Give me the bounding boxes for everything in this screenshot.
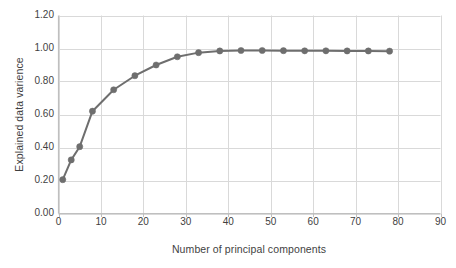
data-point-marker (344, 48, 350, 54)
x-axis-tick-label: 50 (256, 216, 286, 227)
data-point-marker (386, 48, 392, 54)
x-axis-tick-labels: 0102030405060708090 (0, 216, 456, 232)
data-point-marker (153, 62, 159, 68)
data-point-marker (302, 48, 308, 54)
data-point-marker (323, 48, 329, 54)
data-point-marker (132, 73, 138, 79)
data-point-marker (77, 144, 83, 150)
gridlines (59, 16, 442, 215)
data-point-marker (280, 48, 286, 54)
x-axis-title: Number of principal components (58, 243, 440, 255)
x-axis-tick-label: 70 (341, 216, 371, 227)
x-axis-tick-label: 60 (298, 216, 328, 227)
x-axis-tick-label: 20 (128, 216, 158, 227)
data-point-marker (259, 47, 265, 53)
data-point-marker (217, 48, 223, 54)
data-point-marker (111, 87, 117, 93)
data-point-marker (365, 48, 371, 54)
x-axis-tick-label: 90 (426, 216, 456, 227)
x-axis-tick-label: 40 (213, 216, 243, 227)
data-point-marker (89, 108, 95, 114)
data-point-marker (60, 177, 66, 183)
x-axis-tick-label: 80 (383, 216, 413, 227)
chart-container: Explained data varience 0.000.200.400.60… (0, 0, 456, 268)
axis-lines (59, 16, 442, 218)
x-axis-tick-label: 10 (86, 216, 116, 227)
x-axis-tick-label: 0 (44, 216, 74, 227)
data-point-marker (68, 157, 74, 163)
data-point-marker (174, 54, 180, 60)
data-point-marker (238, 47, 244, 53)
x-axis-tick-label: 30 (171, 216, 201, 227)
data-point-marker (195, 50, 201, 56)
